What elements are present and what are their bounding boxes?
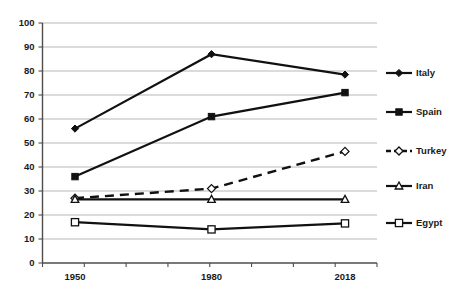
legend-marker-egypt bbox=[395, 219, 402, 226]
y-axis-tick-label: 20 bbox=[24, 209, 35, 220]
y-axis-tick-label: 30 bbox=[24, 185, 35, 196]
y-axis-tick-label: 10 bbox=[24, 233, 35, 244]
data-point-turkey-1980 bbox=[208, 185, 216, 193]
x-axis-tick-label: 1950 bbox=[64, 271, 85, 282]
y-axis-tick-labels: 0102030405060708090100 bbox=[19, 17, 35, 268]
y-axis-tick-label: 60 bbox=[24, 113, 35, 124]
legend-item-iran[interactable]: Iran bbox=[386, 180, 434, 191]
chart-canvas: 0102030405060708090100 195019802018 Ital… bbox=[0, 0, 463, 297]
y-axis-tick-label: 100 bbox=[19, 17, 35, 28]
legend-item-spain[interactable]: Spain bbox=[386, 106, 442, 117]
legend-item-turkey[interactable]: Turkey bbox=[386, 145, 447, 156]
series-egypt bbox=[71, 219, 348, 233]
legend-marker-italy bbox=[395, 69, 402, 76]
legend-label-spain: Spain bbox=[416, 106, 442, 117]
legend-label-egypt: Egypt bbox=[416, 217, 443, 228]
data-point-egypt-2018 bbox=[341, 220, 348, 227]
y-axis-tick-label: 40 bbox=[24, 161, 35, 172]
x-axis-tick-label: 2018 bbox=[334, 271, 355, 282]
legend-item-egypt[interactable]: Egypt bbox=[386, 217, 443, 228]
data-point-spain-2018 bbox=[342, 89, 348, 95]
data-series bbox=[71, 51, 349, 233]
legend-marker-spain bbox=[396, 109, 402, 115]
legend-label-turkey: Turkey bbox=[416, 145, 447, 156]
y-axis-tick-label: 90 bbox=[24, 41, 35, 52]
data-point-turkey-2018 bbox=[341, 147, 349, 155]
y-axis-tick-label: 50 bbox=[24, 137, 35, 148]
series-turkey bbox=[71, 147, 349, 202]
x-axis-tick-label: 1980 bbox=[201, 271, 222, 282]
line-chart: 0102030405060708090100 195019802018 Ital… bbox=[0, 0, 463, 297]
legend-marker-turkey bbox=[395, 147, 403, 155]
y-axis-tick-label: 80 bbox=[24, 65, 35, 76]
data-point-spain-1950 bbox=[72, 173, 78, 179]
x-axis-tick-labels: 195019802018 bbox=[64, 271, 355, 282]
legend-label-iran: Iran bbox=[416, 180, 434, 191]
data-point-italy-2018 bbox=[341, 71, 348, 78]
chart-legend: ItalySpainTurkeyIranEgypt bbox=[386, 67, 447, 228]
series-spain bbox=[72, 89, 348, 179]
series-line-spain bbox=[75, 93, 345, 177]
legend-item-italy[interactable]: Italy bbox=[386, 67, 436, 78]
legend-label-italy: Italy bbox=[416, 67, 436, 78]
data-point-spain-1980 bbox=[208, 113, 214, 119]
data-point-egypt-1980 bbox=[208, 226, 215, 233]
y-axis-tick-label: 0 bbox=[29, 257, 34, 268]
data-point-egypt-1950 bbox=[71, 219, 78, 226]
y-axis-tick-label: 70 bbox=[24, 89, 35, 100]
